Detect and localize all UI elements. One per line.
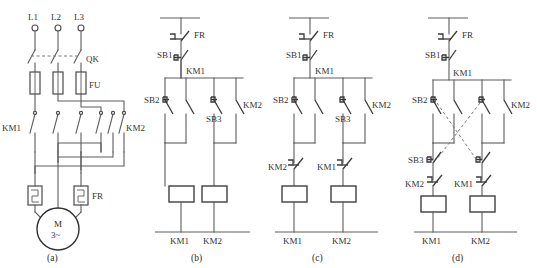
km2-nc-interlock-c [288,158,303,186]
fr-nc-contact-c [299,31,318,58]
label-coil-km1-b: KM1 [170,236,189,246]
label-sb1-b: SB1 [157,50,173,60]
label-sb1-d: SB1 [425,50,441,60]
sb2-no-button-b [163,78,173,143]
label-interlock-km1-c: KM1 [317,162,336,172]
label-km1-aux-c: KM1 [315,66,334,76]
km1-nc-interlock-d [476,175,491,196]
label-l1: L1 [28,12,38,22]
sb2-no-button-c [292,78,302,143]
km1-coil-b [169,186,194,232]
km2-coil-d [470,196,495,232]
sb3-no-button-c [340,78,351,143]
km1-aux-no-contact-b [165,78,194,143]
label-motor-m: M [54,219,62,229]
label-l3: L3 [74,12,84,22]
label-motor-3p: 3~ [51,230,61,240]
label-km1-power: KM1 [2,123,21,133]
km1-aux-no-contact-c [294,78,323,143]
panel-a [28,25,126,250]
sb2-no-button-d [431,80,441,143]
label-fr-c: FR [323,30,334,40]
km2-aux-no-contact-c [343,78,373,143]
contactor-km1-power-contacts [30,111,83,152]
label-coil-km2-d: KM2 [471,236,490,246]
label-sb3-d: SB3 [408,155,424,165]
isolator-switch-qk [28,50,81,72]
label-coil-km2-b: KM2 [203,236,222,246]
label-fr-power: FR [92,191,103,201]
label-sb1-c: SB1 [286,50,302,60]
caption-b: (b) [191,253,202,264]
label-km2-power: KM2 [126,123,145,133]
label-sb2-b: SB2 [144,95,160,105]
sb2-nc-button-d [476,152,490,180]
label-interlock-km2-c: KM2 [268,162,287,172]
motor-symbol [37,208,79,250]
fr-nc-contact-b [170,31,189,58]
km1-coil-c [282,186,307,232]
km2-coil-c [331,186,356,232]
km2-aux-no-contact-b [214,78,244,143]
schematic-svg: L1 L2 L3 QK FU KM1 KM2 FR M 3~ (a) [0,0,537,268]
mechanical-linkage-dashed-d [437,103,480,159]
km1-aux-no-contact-d [433,80,462,143]
label-fu: FU [89,80,101,90]
caption-c: (c) [312,253,323,264]
km2-aux-no-contact-d [482,80,512,143]
label-coil-km2-c: KM2 [332,236,351,246]
label-km1-aux-d: KM1 [453,68,472,78]
supply-terminals [32,25,84,31]
label-coil-km1-c: KM1 [283,236,302,246]
caption-a: (a) [47,253,58,264]
sb3-no-button-upper-d [479,80,490,143]
caption-d: (d) [452,253,463,264]
label-qk: QK [86,54,99,64]
label-km2-aux-d: KM2 [511,100,530,110]
label-coil-km1-d: KM1 [422,236,441,246]
label-km2-aux-b: KM2 [243,100,262,110]
label-sb3-b: SB3 [206,114,222,124]
label-fr-b: FR [194,30,205,40]
schematic-sheet: L1 L2 L3 QK FU KM1 KM2 FR M 3~ (a) [0,0,537,268]
contactor-km2-power-contacts [96,111,126,152]
label-sb2-c: SB2 [273,95,289,105]
km2-nc-interlock-d [427,175,442,196]
km1-coil-d [421,196,446,232]
km2-coil-b [202,186,227,232]
label-interlock-km1-d: KM1 [454,179,473,189]
km1-nc-interlock-c [337,158,352,186]
label-km2-aux-c: KM2 [372,100,391,110]
fuses-fu [30,72,86,94]
sb3-no-button-b [211,78,222,143]
fr-nc-contact-d [438,31,457,58]
label-fr-d: FR [462,30,473,40]
label-sb3-c: SB3 [335,114,351,124]
label-interlock-km2-d: KM2 [405,179,424,189]
label-sb2-d: SB2 [412,95,428,105]
label-l2: L2 [51,12,61,22]
label-km1-aux-b: KM1 [186,66,205,76]
